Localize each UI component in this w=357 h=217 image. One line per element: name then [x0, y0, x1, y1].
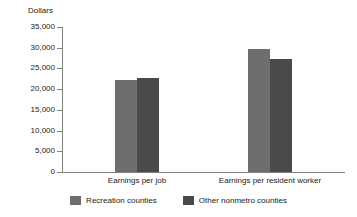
y-axis-tick-label: 35,000 — [3, 23, 55, 31]
y-axis-tick-label: 25,000 — [3, 64, 55, 72]
legend-label: Other nonmetro counties — [199, 196, 287, 205]
y-axis-title: Dollars — [28, 6, 53, 16]
y-axis-tick-label: 5,000 — [3, 147, 55, 155]
y-axis-tick-label: 20,000 — [3, 85, 55, 93]
y-axis-tick — [57, 172, 62, 173]
legend-item: Other nonmetro counties — [183, 196, 287, 205]
bar — [137, 78, 159, 172]
bar — [115, 80, 137, 172]
legend-item: Recreation counties — [70, 196, 157, 205]
plot-area — [62, 27, 345, 172]
x-axis-line — [62, 172, 345, 173]
bar-group — [115, 27, 159, 172]
legend-swatch-icon — [70, 196, 81, 205]
y-axis-tick-label: 0 — [3, 168, 55, 176]
chart-legend: Recreation countiesOther nonmetro counti… — [0, 196, 357, 205]
y-axis-tick-label: 30,000 — [3, 44, 55, 52]
bar-group — [248, 27, 292, 172]
x-axis-category-label: Earnings per resident worker — [190, 176, 350, 186]
bar — [270, 59, 292, 172]
legend-label: Recreation counties — [86, 196, 157, 205]
legend-swatch-icon — [183, 196, 194, 205]
bar — [248, 49, 270, 172]
y-axis-tick-label: 15,000 — [3, 106, 55, 114]
bar-chart: Dollars 05,00010,00015,00020,00025,00030… — [0, 0, 357, 217]
y-axis-tick-label: 10,000 — [3, 127, 55, 135]
